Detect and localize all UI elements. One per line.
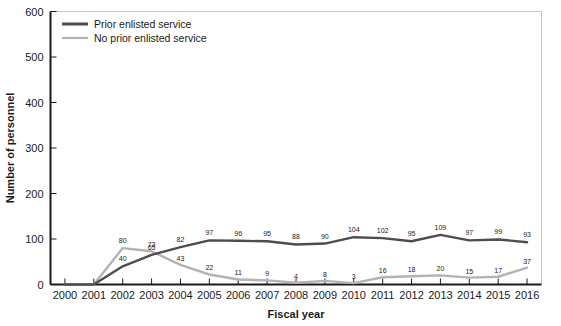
x-axis-title: Fiscal year [268,308,326,320]
data-point-label: 18 [408,266,416,273]
data-point-label: 9 [265,270,269,277]
x-axis-tick-label: 2002 [110,289,134,301]
x-axis-tick-label: 2003 [139,289,163,301]
chart-canvas: 0100200300400500600200020012002200320042… [0,0,561,326]
y-axis-tick-label: 400 [25,97,43,109]
x-axis-tick-label: 2008 [284,289,308,301]
data-point-label: 96 [234,230,242,237]
data-point-label: 99 [494,228,502,235]
data-point-label: 11 [235,269,242,276]
x-axis-tick-label: 2015 [486,289,510,301]
x-axis-tick-label: 2013 [428,289,452,301]
x-axis-tick-label: 2016 [515,289,539,301]
data-point-label: 88 [292,233,300,240]
x-axis-tick-label: 2007 [255,289,279,301]
x-axis-tick-label: 2011 [371,289,395,301]
y-axis-tick-label: 100 [25,233,43,245]
data-point-label: 15 [465,268,473,275]
x-axis-tick-label: 2010 [342,289,366,301]
data-point-label: 97 [465,229,473,236]
x-axis-tick-label: 2004 [168,289,192,301]
data-point-label: 3 [352,273,356,280]
data-point-label: 40 [119,255,127,262]
line-chart: 0100200300400500600200020012002200320042… [0,0,561,326]
data-point-label: 93 [523,231,531,238]
data-point-label: 95 [263,230,271,237]
y-axis-tick-label: 300 [25,142,43,154]
data-point-label: 4 [294,273,298,280]
x-axis-tick-label: 2006 [226,289,250,301]
y-axis-tick-label: 500 [25,51,43,63]
x-axis-tick-label: 2009 [313,289,337,301]
data-point-label: 80 [119,237,127,244]
data-point-label: 20 [437,265,445,272]
data-point-label: 17 [494,267,502,274]
data-point-label: 37 [523,258,531,265]
data-point-label: 95 [408,230,416,237]
data-point-label: 102 [377,227,389,234]
y-axis-tick-label: 200 [25,188,43,200]
data-point-label: 82 [177,236,185,243]
x-axis-tick-label: 2005 [197,289,221,301]
y-axis-title: Number of personnel [4,93,16,204]
x-axis-tick-label: 2012 [399,289,423,301]
x-axis-tick-label: 2014 [457,289,481,301]
y-axis-tick-label: 600 [25,6,43,18]
data-point-label: 97 [205,229,213,236]
legend-label: Prior enlisted service [94,18,192,30]
data-point-label: 104 [348,226,360,233]
data-point-label: 90 [321,233,329,240]
x-axis-tick-label: 2000 [53,289,77,301]
legend-label: No prior enlisted service [94,32,207,44]
x-axis-tick-label: 2001 [82,289,106,301]
data-point-label: 22 [205,264,213,271]
data-point-label: 73 [148,241,156,248]
data-point-label: 109 [435,224,447,231]
data-point-label: 8 [323,271,327,278]
y-axis-tick-label: 0 [37,279,43,291]
data-point-label: 16 [379,267,387,274]
data-point-label: 43 [177,255,185,262]
